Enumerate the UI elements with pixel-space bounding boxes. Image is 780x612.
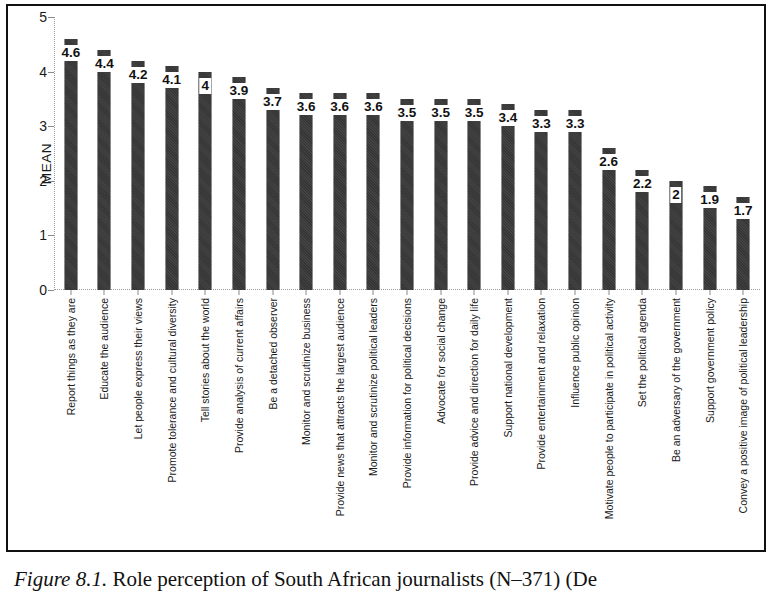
x-axis-category-label: Provide analysis of current affairs: [233, 298, 244, 548]
x-tick-mark: [541, 290, 542, 295]
bar[interactable]: [64, 39, 77, 290]
x-axis-label-slot: Provide advice and direction for daily l…: [457, 298, 491, 299]
x-axis-category-label: Provide advice and direction for daily l…: [469, 298, 480, 548]
x-axis-category-label: Be an adversary of the government: [670, 298, 681, 548]
bar-value-label: 3.9: [228, 83, 251, 99]
x-axis-label-slot: Monitor and scrutinize political leaders: [357, 298, 391, 299]
bar-value-label: 3.4: [496, 110, 519, 126]
x-axis-category-label: Report things as they are: [65, 298, 76, 548]
y-tick-label: 1: [39, 227, 47, 243]
bar-value-label: 3.7: [261, 94, 284, 110]
x-axis-label-slot: Be a detached observer: [256, 298, 290, 299]
bar[interactable]: [501, 104, 514, 290]
x-tick-mark: [608, 290, 609, 295]
x-axis-category-label: Advocate for social change: [435, 298, 446, 548]
bar-slot: 3.6: [289, 17, 323, 290]
bar-slot: 4.2: [121, 17, 155, 290]
x-tick-mark: [373, 290, 374, 295]
bar[interactable]: [165, 66, 178, 290]
y-tick-label: 2: [39, 173, 47, 189]
x-axis-label-slot: Tell stories about the world: [188, 298, 222, 299]
x-axis-category-label: Set the political agenda: [637, 298, 648, 548]
bar-slot: 3.9: [222, 17, 256, 290]
bar[interactable]: [199, 72, 212, 290]
bar-value-label: 4.4: [93, 56, 116, 72]
bar-slot: 3.6: [357, 17, 391, 290]
x-axis-category-label: Monitor and scrutinize business: [301, 298, 312, 548]
x-axis-label-slot: Promote tolerance and cultural diversity: [155, 298, 189, 299]
x-axis-label-slot: Be an adversary of the government: [659, 298, 693, 299]
x-axis-label-slot: Convey a positive image of political lea…: [726, 298, 760, 299]
bar-value-label: 4: [200, 78, 212, 94]
bar-slot: 1.9: [693, 17, 727, 290]
x-tick-mark: [138, 290, 139, 295]
bar-value-label: 3.5: [396, 105, 419, 121]
x-tick-mark: [406, 290, 407, 295]
x-axis-category-label: Promote tolerance and cultural diversity: [166, 298, 177, 548]
bar[interactable]: [232, 77, 245, 290]
bar[interactable]: [367, 93, 380, 290]
x-tick-mark: [642, 290, 643, 295]
figure-root: MEAN 012345 4.64.44.24.143.93.73.63.63.6…: [0, 0, 780, 612]
bar-value-label: 1.9: [698, 192, 721, 208]
x-axis-category-label: Support national development: [502, 298, 513, 548]
x-axis-category-label: Support government policy: [704, 298, 715, 548]
bar-value-label: 2: [670, 187, 682, 203]
x-tick-mark: [474, 290, 475, 295]
bar-slot: 2.2: [626, 17, 660, 290]
x-tick-mark: [205, 290, 206, 295]
bar[interactable]: [434, 99, 447, 290]
bar-slot: 3.6: [323, 17, 357, 290]
bar[interactable]: [400, 99, 413, 290]
x-axis-category-label: Provide news that attracts the largest a…: [334, 298, 345, 548]
bar[interactable]: [535, 110, 548, 290]
x-tick-mark: [675, 290, 676, 295]
bar-slot: 4.4: [88, 17, 122, 290]
x-axis-label-slot: Provide information for political decisi…: [390, 298, 424, 299]
x-axis-category-label: Motivate people to participate in politi…: [603, 298, 614, 548]
x-axis-category-label: Educate the audience: [99, 298, 110, 548]
bar-slot: 2.6: [592, 17, 626, 290]
bar-slot: 3.3: [525, 17, 559, 290]
x-axis-category-label: Influence public opinion: [570, 298, 581, 548]
x-tick-mark: [507, 290, 508, 295]
bar-value-label: 3.5: [463, 105, 486, 121]
figure-caption-text: Role perception of South African journal…: [112, 567, 597, 591]
x-tick-mark: [104, 290, 105, 295]
bar-series: 4.64.44.24.143.93.73.63.63.63.53.53.53.4…: [54, 17, 760, 290]
x-axis-label-slot: Provide analysis of current affairs: [222, 298, 256, 299]
bar-slot: 3.5: [390, 17, 424, 290]
x-tick-mark: [70, 290, 71, 295]
bar-slot: 4.6: [54, 17, 88, 290]
bar-value-label: 3.6: [362, 99, 385, 115]
bar-slot: 2: [659, 17, 693, 290]
bar-value-label: 3.6: [328, 99, 351, 115]
x-axis-category-label: Tell stories about the world: [200, 298, 211, 548]
figure-caption: Figure 8.1. Role perception of South Afr…: [14, 566, 766, 592]
bar[interactable]: [98, 50, 111, 290]
x-tick-mark: [575, 290, 576, 295]
bar[interactable]: [266, 88, 279, 290]
x-axis-label-slot: Support national development: [491, 298, 525, 299]
x-axis-category-label: Convey a positive image of political lea…: [738, 298, 749, 548]
x-axis-label-slot: Set the political agenda: [626, 298, 660, 299]
bar[interactable]: [300, 93, 313, 290]
bar-value-label: 2.2: [631, 176, 654, 192]
bar-slot: 3.5: [424, 17, 458, 290]
x-axis-category-label: Let people express their views: [133, 298, 144, 548]
y-tick-label: 0: [39, 282, 47, 298]
x-tick-mark: [306, 290, 307, 295]
bar[interactable]: [333, 93, 346, 290]
bar[interactable]: [468, 99, 481, 290]
x-axis-category-label: Be a detached observer: [267, 298, 278, 548]
bar[interactable]: [569, 110, 582, 290]
bar-slot: 4.1: [155, 17, 189, 290]
bar-value-label: 3.3: [564, 116, 587, 132]
bar[interactable]: [132, 61, 145, 290]
x-axis-label-slot: Provide news that attracts the largest a…: [323, 298, 357, 299]
figure-frame: MEAN 012345 4.64.44.24.143.93.73.63.63.6…: [6, 4, 766, 552]
bar-slot: 4: [188, 17, 222, 290]
x-tick-mark: [339, 290, 340, 295]
bar-slot: 3.3: [558, 17, 592, 290]
x-axis-label-slot: Provide entertainment and relaxation: [525, 298, 559, 299]
